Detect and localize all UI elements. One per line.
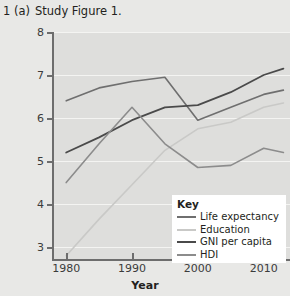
question-instruction: Study Figure 1. xyxy=(35,4,122,18)
line-chart: 345678 1980199020002010 Year Key Life ex… xyxy=(0,20,290,296)
legend-label: GNI per capita xyxy=(200,236,272,248)
x-tick-label: 2000 xyxy=(178,263,218,274)
chart-legend: Key Life expectancyEducationGNI per capi… xyxy=(172,195,286,263)
legend-swatch xyxy=(177,241,196,243)
y-tick xyxy=(47,75,52,77)
legend-label: Education xyxy=(200,224,250,236)
legend-item: Life expectancy xyxy=(177,211,282,224)
legend-swatch xyxy=(177,216,196,218)
y-tick xyxy=(47,118,52,120)
series-line xyxy=(66,69,283,153)
x-tick-label: 1980 xyxy=(46,263,86,274)
y-tick-label: 5 xyxy=(30,156,44,167)
y-tick-label: 7 xyxy=(30,70,44,81)
legend-label: HDI xyxy=(200,249,218,261)
question-part-label: (a) xyxy=(14,4,34,18)
legend-title: Key xyxy=(177,198,282,210)
question-number: 1 xyxy=(3,4,14,18)
y-tick xyxy=(47,204,52,206)
y-tick-label: 8 xyxy=(30,27,44,38)
y-tick xyxy=(47,161,52,163)
y-tick xyxy=(47,32,52,34)
legend-item: HDI xyxy=(177,249,282,262)
legend-swatch xyxy=(177,229,196,231)
x-tick xyxy=(66,253,68,259)
x-tick xyxy=(132,253,134,259)
x-tick-label: 2010 xyxy=(244,263,284,274)
question-header: 1 (a) Study Figure 1. xyxy=(0,2,290,20)
legend-swatch xyxy=(177,254,196,256)
legend-label: Life expectancy xyxy=(200,211,279,223)
legend-item: Education xyxy=(177,224,282,237)
x-axis-title: Year xyxy=(0,279,290,292)
y-tick-label: 4 xyxy=(30,199,44,210)
y-tick-label: 3 xyxy=(30,242,44,253)
x-tick-label: 1990 xyxy=(112,263,152,274)
y-tick xyxy=(47,247,52,249)
legend-entries: Life expectancyEducationGNI per capitaHD… xyxy=(177,211,282,261)
y-tick-label: 6 xyxy=(30,113,44,124)
legend-item: GNI per capita xyxy=(177,236,282,249)
series-line xyxy=(66,107,283,182)
y-axis-line xyxy=(52,32,54,260)
